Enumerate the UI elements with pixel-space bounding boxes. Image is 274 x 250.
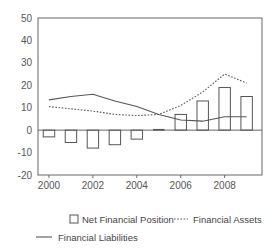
chart-canvas: 50403020100-10-20 20002002200420062008 N… [0,0,274,250]
x-tick-label: 2004 [126,180,149,191]
legend-label-financial-liabilities: Financial Liabilities [58,232,138,243]
y-tick-label: 30 [21,57,33,68]
bar-net-financial-position [197,101,208,130]
y-tick-label: 10 [21,102,33,113]
legend-swatch-net-financial-position [70,215,78,223]
financial-liabilities-line [49,94,247,121]
bar-net-financial-position [65,130,76,142]
x-tick-label: 2006 [170,180,193,191]
y-tick-label: -20 [18,170,33,181]
y-tick-label: 0 [26,125,32,136]
x-tick-label: 2000 [38,180,61,191]
y-tick-label: 40 [21,35,33,46]
bar-net-financial-position [43,130,54,137]
y-tick-label: -10 [18,147,33,158]
bar-net-financial-position [175,114,186,130]
bar-net-financial-position [241,97,252,131]
x-axis-tick-labels: 20002002200420062008 [38,180,236,191]
legend-label-net-financial-position: Net Financial Position [82,214,174,225]
bar-net-financial-position [131,130,142,139]
financial-position-chart: 50403020100-10-20 20002002200420062008 N… [0,0,274,250]
bar-net-financial-position [109,130,120,145]
bar-net-financial-position [87,130,98,148]
x-tick-label: 2008 [214,180,237,191]
legend-label-financial-assets: Financial Assets [193,214,262,225]
bar-net-financial-position [153,129,164,131]
y-axis-tick-labels: 50403020100-10-20 [18,13,33,181]
x-tick-label: 2002 [82,180,105,191]
y-tick-label: 20 [21,80,33,91]
financial-assets-line [49,74,247,115]
y-tick-label: 50 [21,13,33,24]
bar-net-financial-position [219,88,230,131]
chart-legend: Net Financial Position Financial Assets … [36,214,262,243]
